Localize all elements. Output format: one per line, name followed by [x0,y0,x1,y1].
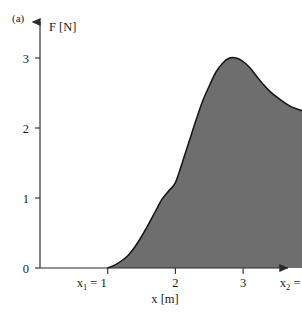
x-tick-label: 3 [240,276,246,290]
x-tick-label: x2 = 4 [280,276,302,292]
x-tick-label: 2 [172,276,178,290]
figure-root: (a) F [N] x [m] 0123 x1 = 123x2 = 4 [0,0,302,318]
x-axis-ticks: x1 = 123x2 = 4 [77,268,302,292]
y-axis-ticks: 0123 [23,52,40,276]
y-tick-label: 1 [23,192,29,206]
x-tick-label: x1 = 1 [77,276,107,292]
y-tick-label: 0 [23,262,29,276]
shaded-area-under-curve [108,57,302,268]
x-axis-title: x [m] [151,292,178,306]
y-tick-label: 2 [23,122,29,136]
y-axis-title: F [N] [49,20,76,34]
panel-label: (a) [12,12,25,25]
force-position-chart: (a) F [N] x [m] 0123 x1 = 123x2 = 4 [0,0,302,318]
y-tick-label: 3 [23,52,29,66]
